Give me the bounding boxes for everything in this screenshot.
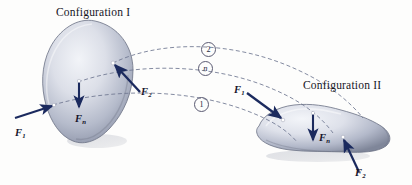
body-1-force-n-symbol: F	[75, 113, 82, 124]
body-2-force-n-symbol: F	[319, 132, 326, 143]
body-1	[43, 20, 133, 142]
path-label-n: n	[198, 61, 213, 76]
body-1-force-2-symbol: F	[141, 86, 148, 97]
body-2-point-n	[311, 111, 314, 114]
body-1-force-1-subscript: 1	[22, 132, 25, 139]
body-2-force-1-subscript: 1	[241, 89, 244, 96]
body-2-outline	[257, 104, 390, 152]
body-2-point-2	[341, 135, 345, 139]
body-1-force-1-arrow	[15, 106, 52, 118]
body-2-force-1-arrow	[247, 93, 281, 118]
body-2-force-2-subscript: 2	[362, 172, 365, 179]
body-2-force-2-label: F2	[355, 167, 366, 179]
body-2-force-1-label: F1	[234, 84, 245, 96]
path-label-2: 2	[201, 42, 216, 57]
body-1-force-1-label: F1	[15, 127, 26, 139]
figure-canvas: Configuration I Configuration II 2 n 1 F…	[0, 0, 412, 185]
body-2-force-2-symbol: F	[355, 167, 362, 178]
body-1-outline	[43, 20, 133, 142]
body-1-force-1-symbol: F	[15, 127, 22, 138]
configuration-1-title: Configuration I	[56, 6, 130, 18]
body-1-point-1	[52, 103, 55, 106]
body-1-force-2-label: F2	[141, 86, 152, 98]
path-label-1: 1	[194, 97, 209, 112]
body-1-force-n-subscript: n	[82, 118, 86, 125]
configuration-2-title: Configuration II	[303, 79, 381, 91]
body-2	[257, 104, 390, 152]
diagram-svg	[0, 0, 412, 185]
body-1-point-n	[77, 79, 80, 82]
body-1-force-n-label: Fn	[75, 113, 86, 125]
body-1-point-2	[111, 61, 115, 65]
body-2-force-n-label: Fn	[319, 132, 330, 144]
body-2-point-1	[281, 118, 285, 122]
body-2-force-1-symbol: F	[234, 84, 241, 95]
body-1-force-2-subscript: 2	[148, 91, 151, 98]
body-2-force-n-subscript: n	[326, 137, 330, 144]
